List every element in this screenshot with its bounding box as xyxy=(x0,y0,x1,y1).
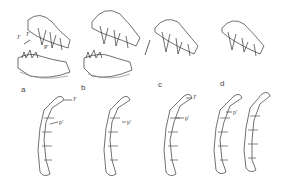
label-b-bottom-1: p' xyxy=(127,119,131,125)
tooth-row-c xyxy=(164,94,192,175)
label-a-top-3: P' xyxy=(44,44,48,50)
label-a-bottom-2: p' xyxy=(59,119,63,125)
tooth-row-d2 xyxy=(244,92,270,171)
panel-letter-d: d xyxy=(220,79,224,88)
panel-letter-b: b xyxy=(81,83,85,92)
panel-d-jaw-drawing xyxy=(222,21,264,56)
label-d-bottom-1: p' xyxy=(233,109,237,115)
panel-b-jaw-drawing xyxy=(84,10,140,78)
tooth-row-d1 xyxy=(214,94,242,173)
tooth-row-a xyxy=(38,96,64,175)
dental-illustrations xyxy=(0,0,283,187)
label-a-top-1: J' xyxy=(17,34,20,40)
label-c-bottom-1: J' xyxy=(193,94,196,100)
tooth-row-b xyxy=(104,96,130,175)
label-a-top-2: J' xyxy=(26,31,29,37)
panel-letter-c: c xyxy=(158,80,162,89)
label-a-bottom-1: J' xyxy=(73,96,76,102)
label-c-bottom-2: p' xyxy=(185,115,189,121)
panel-letter-a: a xyxy=(21,85,25,94)
panel-c-jaw-drawing xyxy=(145,20,198,56)
